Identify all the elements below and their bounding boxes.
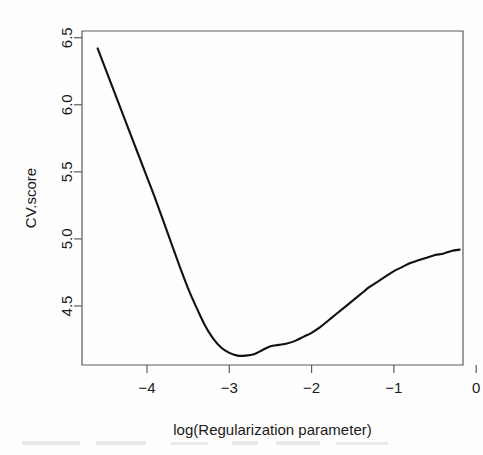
scan-artifact: [96, 441, 146, 445]
cv-score-plot: −4−3−2−104.55.05.56.06.5log(Regularizati…: [0, 0, 483, 455]
plot-background: [0, 0, 483, 455]
figure-page: −4−3−2−104.55.05.56.06.5log(Regularizati…: [0, 0, 483, 455]
x-axis-title: log(Regularization parameter): [173, 421, 371, 438]
x-tick-label: −3: [221, 379, 238, 396]
y-tick-label: 5.0: [59, 228, 76, 249]
x-tick-label: −4: [138, 379, 155, 396]
scan-artifact: [336, 442, 388, 445]
x-tick-label: 0: [472, 379, 480, 396]
y-tick-label: 5.5: [59, 161, 76, 182]
scan-artifact: [22, 441, 80, 445]
scan-artifact: [276, 441, 320, 445]
y-tick-label: 6.0: [59, 94, 76, 115]
scan-artifact: [232, 441, 258, 445]
x-tick-label: −1: [385, 379, 402, 396]
y-tick-label: 6.5: [59, 27, 76, 48]
x-tick-label: −2: [303, 379, 320, 396]
y-tick-label: 4.5: [59, 296, 76, 317]
y-axis-title: CV.score: [22, 168, 39, 228]
scan-artifact: [170, 442, 208, 445]
